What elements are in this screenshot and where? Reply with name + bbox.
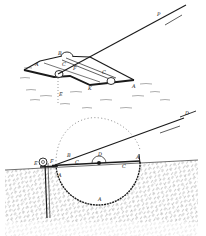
label-a-top-right: A	[135, 154, 140, 160]
pivot-icon	[97, 161, 101, 165]
label-a-left: A	[34, 61, 39, 67]
label-c-right: C	[102, 69, 106, 75]
bottom-figure: E F B C D C A A A	[0, 118, 206, 236]
tow-rope	[58, 5, 186, 74]
label-c-left-section: C	[75, 159, 79, 165]
label-k: K	[87, 85, 92, 91]
tow-rope-section	[55, 118, 184, 165]
label-b: B	[57, 50, 62, 56]
label-a-bottom: A	[97, 196, 102, 202]
label-c-right-section: C	[122, 163, 126, 169]
label-b-section: B	[66, 152, 71, 158]
label-c-left: C	[62, 61, 66, 67]
bracket	[40, 166, 58, 167]
label-d-section: D	[97, 151, 102, 157]
roller-back-icon	[61, 52, 73, 57]
label-a-left-section: A	[57, 172, 62, 178]
patent-drawing: A B C F C E K A P D	[0, 0, 206, 236]
label-e-section: E	[33, 160, 38, 166]
direction-arrow-section-icon	[160, 126, 180, 133]
roller-frame	[24, 56, 134, 85]
label-f-section: F	[49, 158, 54, 164]
label-f: F	[72, 65, 77, 71]
label-p: P	[156, 11, 161, 17]
top-figure: A B C F C E K A P D	[20, 5, 196, 117]
direction-arrow-icon	[165, 15, 182, 25]
label-a-right: A	[131, 83, 136, 89]
wheel-icon	[39, 158, 47, 166]
label-e: E	[58, 91, 63, 97]
roller-front-right-icon	[107, 78, 115, 85]
